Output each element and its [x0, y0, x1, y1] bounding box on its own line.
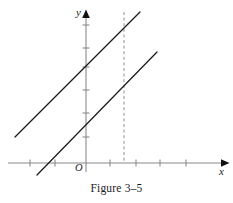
- lower-line: [37, 52, 157, 175]
- y-axis-label: y: [76, 7, 81, 18]
- figure-caption: Figure 3–5: [0, 182, 233, 194]
- figure-container: y x O Figure 3–5: [0, 0, 233, 203]
- x-axis-label: x: [219, 166, 224, 177]
- plot-canvas: [0, 0, 233, 203]
- y-axis-arrow-icon: [82, 10, 90, 19]
- origin-label: O: [75, 163, 83, 174]
- upper-line: [15, 12, 140, 137]
